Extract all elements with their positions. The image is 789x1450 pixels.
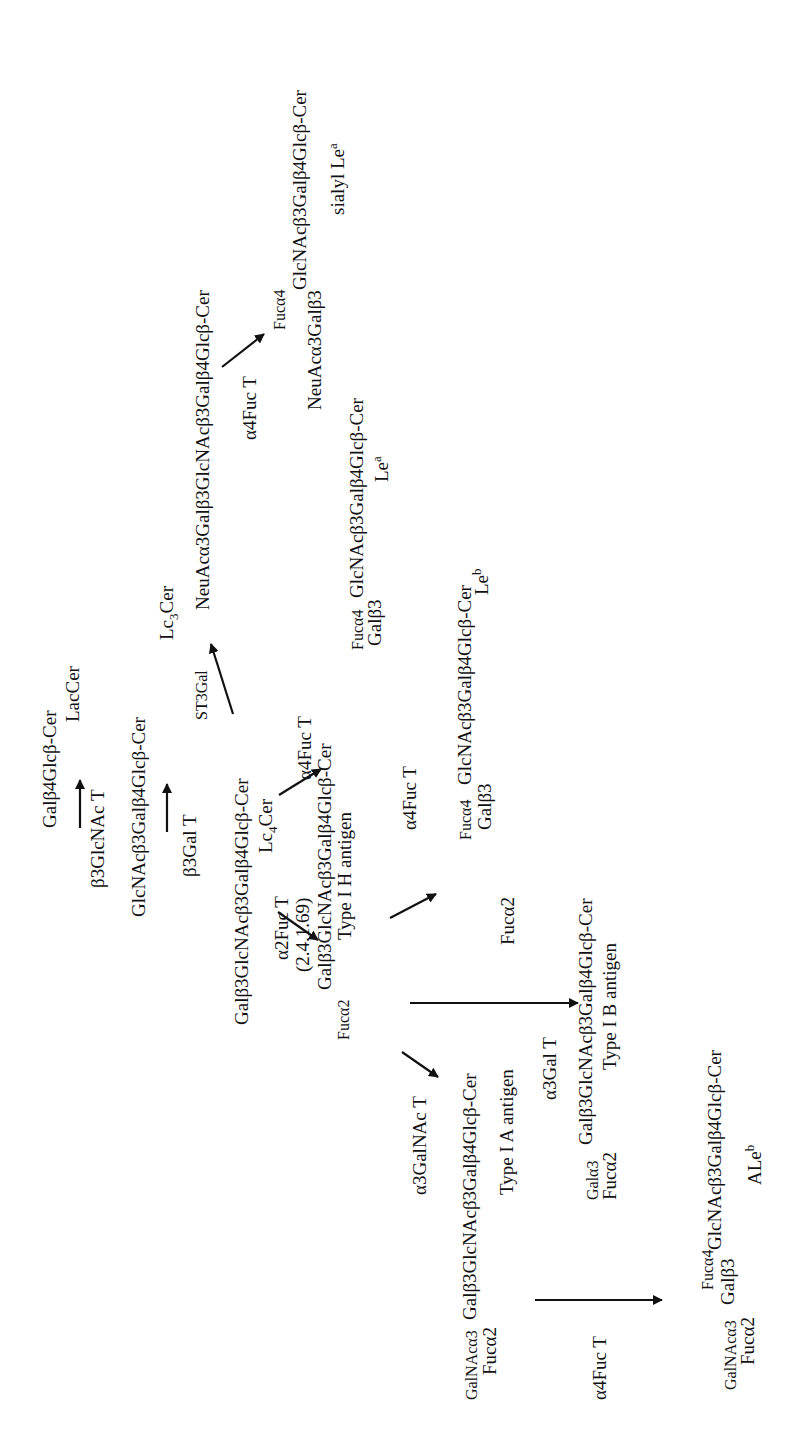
sialyl-lea-chain: GlcNAcβ3Galβ4Glcβ-Cer — [290, 90, 309, 290]
lac-name: LacCer — [63, 666, 82, 722]
lc3-name: Lc3Cer — [157, 586, 176, 640]
arrow-type1h-to-leb — [390, 894, 436, 918]
lc3-chain: GlcNAcβ3Galβ4Glcβ-Cer — [129, 717, 148, 917]
aleb-fuc2-branch: Fucα2 — [738, 1317, 757, 1365]
enzyme-st3gal: ST3Gal — [194, 670, 210, 720]
enzyme-a3gal: α3Gal T — [540, 1037, 559, 1100]
lea-chain: GlcNAcβ3Galβ4Glcβ-Cer — [347, 398, 366, 598]
enzyme-b3glcnac: β3GlcNAc T — [88, 790, 107, 889]
sialyl-lc4-chain: NeuAcα3Galβ3GlcNAcβ3Galβ4Glcβ-Cer — [193, 290, 212, 610]
type1b-name: Type I B antigen — [600, 943, 619, 1070]
lea-name: Lea — [372, 456, 391, 482]
aleb-prefix: Galβ3 — [718, 1258, 737, 1305]
leb-fuc4-branch: Fucα4 — [458, 800, 474, 840]
sialyl-lea-name: sialyl Lea — [328, 143, 347, 215]
type1h-name: Type I H antigen — [335, 812, 354, 940]
type1a-name: Type I A antigen — [497, 1069, 516, 1195]
lea-prefix: Galβ3 — [365, 599, 384, 646]
lc4-chain: Galβ3GlcNAcβ3Galβ4Glcβ-Cer — [232, 778, 251, 1025]
enzyme-a4fuc-sialyl: α4Fuc T — [240, 376, 259, 440]
type1a-chain: Galβ3GlcNAcβ3Galβ4Glcβ-Cer — [460, 1073, 479, 1320]
enzyme-a4fuc-aleb: α4Fuc T — [590, 1336, 609, 1400]
leb-fuc2-branch: Fucα2 — [498, 897, 517, 945]
enzyme-a2fuc-ec: (2.4.1.69) — [293, 898, 312, 972]
lac-chain: Galβ4Glcβ-Cer — [40, 711, 59, 828]
type1b-fuc-branch: Fucα2 — [600, 1152, 619, 1200]
arrow-type1h-to-type1a — [402, 1052, 438, 1077]
enzyme-a2fuc: α2Fuc T — [272, 896, 291, 960]
lc4-name: Lc4Cer — [256, 799, 275, 853]
arrow-sialyl-to-sialyl-lea — [222, 334, 264, 367]
type1a-galnac-branch: GalNAcα3 — [464, 1330, 480, 1400]
leb-prefix: Galβ3 — [475, 783, 494, 830]
type1h-fuc-branch: Fucα2 — [336, 1000, 352, 1040]
type1h-chain: Galβ3GlcNAcβ3Galβ4Glcβ-Cer — [315, 743, 334, 990]
type1a-fuc-branch: Fucα2 — [480, 1327, 499, 1375]
aleb-chain: GlcNAcβ3Galβ4Glcβ-Cer — [705, 1050, 724, 1250]
arrow-lc4-to-sialyl — [211, 644, 233, 714]
leb-chain: GlcNAcβ3Galβ4Glcβ-Cer — [455, 585, 474, 785]
aleb-fuc4-branch: Fucα4 — [700, 1250, 716, 1290]
enzyme-a3galnac: α3GalNAc T — [410, 1096, 429, 1195]
type1b-chain: Galβ3GlcNAcβ3Galβ4Glcβ-Cer — [576, 898, 595, 1145]
enzyme-a4fuc-leb: α4Fuc T — [400, 766, 419, 830]
enzyme-a4fuc-lea: α4Fuc T — [295, 716, 314, 780]
sialyl-lea-fuc-branch: Fucα4 — [272, 290, 288, 330]
aleb-name: ALeb — [745, 1145, 764, 1185]
sialyl-lea-prefix: NeuAcα3Galβ3 — [305, 290, 324, 410]
arrows-layer — [0, 0, 789, 1450]
leb-name: Leb — [472, 568, 491, 595]
pathway-diagram: Galβ4Glcβ-Cer LacCer β3GlcNAc T GlcNAcβ3… — [0, 0, 789, 1450]
enzyme-b3gal: β3Gal T — [180, 814, 199, 877]
